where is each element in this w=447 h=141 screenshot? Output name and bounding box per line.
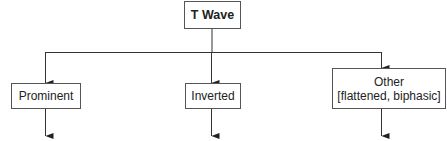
child-node-sublabel: [flattened, biphasic] [337, 89, 440, 103]
root-node-label: T Wave [191, 8, 234, 22]
root-node-t-wave: T Wave [184, 1, 241, 29]
child-node-label: Prominent [19, 89, 74, 103]
child-node-label: Other [374, 75, 404, 89]
child-node-other: Other [flattened, biphasic] [332, 68, 446, 109]
t-wave-classification-diagram: T Wave Prominent Inverted Other [flatten… [0, 0, 447, 141]
child-node-prominent: Prominent [11, 83, 81, 109]
child-node-label: Inverted [191, 89, 234, 103]
child-node-inverted: Inverted [185, 83, 241, 109]
